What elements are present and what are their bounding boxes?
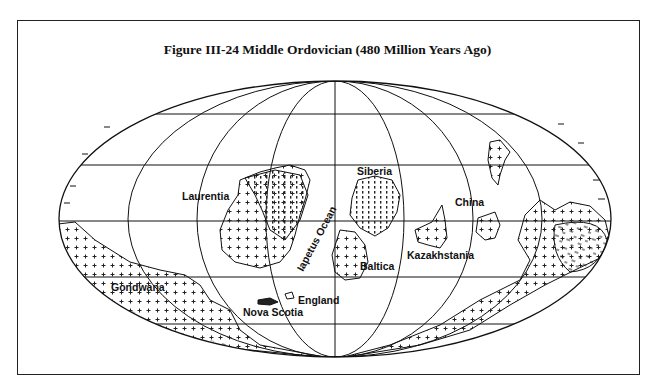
baltica-landmass (332, 230, 368, 280)
label-siberia: Siberia (357, 165, 392, 177)
label-gondwana: Gondwana (111, 281, 165, 293)
kazakhstania-landmass (415, 205, 447, 248)
label-nova-scotia: Nova Scotia (243, 306, 303, 318)
paleogeographic-map: Laurentia Siberia China Kazakhstania Bal… (0, 0, 655, 391)
label-baltica: Baltica (360, 260, 395, 272)
siberia-landmass (350, 176, 400, 236)
label-china: China (455, 196, 484, 208)
label-england: England (298, 294, 339, 306)
label-laurentia: Laurentia (182, 190, 229, 202)
label-kazakhstania: Kazakhstania (407, 249, 474, 261)
china-north-landmass (488, 140, 510, 185)
china-landmass (476, 212, 500, 240)
